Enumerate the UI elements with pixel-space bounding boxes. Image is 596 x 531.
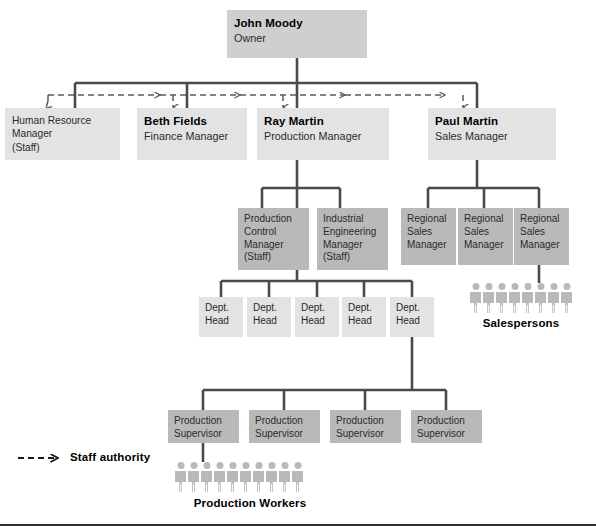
node-sales-title: Sales Manager [435, 129, 549, 143]
node-production-supervisor-3[interactable]: Production Supervisor [330, 410, 401, 443]
node-owner-title: Owner [234, 31, 360, 45]
node-rsm3-line1: Regional [520, 213, 563, 226]
node-dept-head-4[interactable]: Dept. Head [342, 297, 386, 337]
node-production-manager[interactable]: Ray Martin Production Manager [257, 108, 389, 160]
node-hr-line1: Human Resource [12, 114, 113, 127]
production-workers-label: Production Workers [170, 497, 330, 509]
node-regional-sales-manager-3[interactable]: Regional Sales Manager [514, 208, 569, 265]
node-human-resource-manager[interactable]: Human Resource Manager (Staff) [5, 108, 120, 160]
node-ind-eng-line4: (Staff) [323, 251, 382, 264]
node-production-supervisor-2[interactable]: Production Supervisor [249, 410, 320, 443]
salespersons-label: Salespersons [466, 317, 576, 329]
node-dept-head-5-line2: Head [396, 315, 428, 328]
person-icon [548, 283, 559, 313]
node-prod-sup-1-line1: Production [174, 415, 233, 428]
node-hr-line2: Manager [12, 127, 113, 140]
node-owner-name: John Moody [234, 16, 360, 31]
production-workers-figures [175, 462, 305, 492]
node-prod-sup-2-line2: Supervisor [255, 428, 314, 441]
node-prod-sup-3-line2: Supervisor [336, 428, 395, 441]
node-regional-sales-manager-1[interactable]: Regional Sales Manager [401, 208, 456, 265]
node-sales-name: Paul Martin [435, 114, 549, 129]
person-icon [470, 283, 481, 313]
node-production-name: Ray Martin [264, 114, 382, 129]
node-owner[interactable]: John Moody Owner [227, 10, 367, 58]
node-rsm1-line3: Manager [407, 239, 450, 252]
person-icon [266, 462, 277, 492]
node-dept-head-3-line1: Dept. [301, 302, 333, 315]
node-finance-title: Finance Manager [144, 129, 240, 143]
node-dept-head-2[interactable]: Dept. Head [247, 297, 291, 337]
person-icon [175, 462, 186, 492]
node-industrial-engineering-manager[interactable]: Industrial Engineering Manager (Staff) [317, 208, 388, 270]
person-icon [522, 283, 533, 313]
node-production-title: Production Manager [264, 129, 382, 143]
person-icon [509, 283, 520, 313]
node-production-control-manager[interactable]: Production Control Manager (Staff) [238, 208, 309, 270]
bottom-divider [0, 524, 596, 526]
node-dept-head-5-line1: Dept. [396, 302, 428, 315]
node-production-supervisor-1[interactable]: Production Supervisor [168, 410, 239, 443]
person-icon [240, 462, 251, 492]
node-prod-sup-3-line1: Production [336, 415, 395, 428]
person-icon [496, 283, 507, 313]
salespersons-figures [470, 283, 574, 313]
node-prod-sup-4-line1: Production [417, 415, 476, 428]
node-rsm3-line2: Sales [520, 226, 563, 239]
person-icon [483, 283, 494, 313]
node-rsm2-line1: Regional [464, 213, 507, 226]
node-finance-manager[interactable]: Beth Fields Finance Manager [137, 108, 247, 160]
node-prod-sup-2-line1: Production [255, 415, 314, 428]
node-dept-head-5[interactable]: Dept. Head [390, 297, 434, 337]
person-icon [535, 283, 546, 313]
node-dept-head-1-line2: Head [205, 315, 237, 328]
person-icon [279, 462, 290, 492]
node-ind-eng-line3: Manager [323, 239, 382, 252]
node-dept-head-4-line1: Dept. [348, 302, 380, 315]
node-prod-control-line4: (Staff) [244, 251, 303, 264]
node-dept-head-1[interactable]: Dept. Head [199, 297, 243, 337]
node-hr-line3: (Staff) [12, 141, 113, 154]
node-ind-eng-line1: Industrial [323, 213, 382, 226]
node-prod-control-line3: Manager [244, 239, 303, 252]
person-icon [214, 462, 225, 492]
legend-staff-authority-label: Staff authority [70, 451, 150, 463]
node-finance-name: Beth Fields [144, 114, 240, 129]
person-icon [201, 462, 212, 492]
person-icon [253, 462, 264, 492]
node-sales-manager[interactable]: Paul Martin Sales Manager [428, 108, 556, 160]
node-dept-head-4-line2: Head [348, 315, 380, 328]
node-dept-head-2-line1: Dept. [253, 302, 285, 315]
node-rsm3-line3: Manager [520, 239, 563, 252]
node-dept-head-3-line2: Head [301, 315, 333, 328]
node-rsm2-line3: Manager [464, 239, 507, 252]
person-icon [561, 283, 572, 313]
staff-authority-dashed-lines [46, 95, 463, 108]
node-dept-head-2-line2: Head [253, 315, 285, 328]
node-regional-sales-manager-2[interactable]: Regional Sales Manager [458, 208, 513, 265]
node-production-supervisor-4[interactable]: Production Supervisor [411, 410, 482, 443]
person-icon [227, 462, 238, 492]
node-rsm1-line2: Sales [407, 226, 450, 239]
node-rsm2-line2: Sales [464, 226, 507, 239]
node-prod-control-line2: Control [244, 226, 303, 239]
person-icon [188, 462, 199, 492]
org-chart-page: John Moody Owner Human Resource Manager … [0, 0, 596, 531]
node-dept-head-3[interactable]: Dept. Head [295, 297, 339, 337]
node-rsm1-line1: Regional [407, 213, 450, 226]
node-prod-sup-4-line2: Supervisor [417, 428, 476, 441]
node-prod-sup-1-line2: Supervisor [174, 428, 233, 441]
node-dept-head-1-line1: Dept. [205, 302, 237, 315]
node-prod-control-line1: Production [244, 213, 303, 226]
person-icon [292, 462, 303, 492]
node-ind-eng-line2: Engineering [323, 226, 382, 239]
